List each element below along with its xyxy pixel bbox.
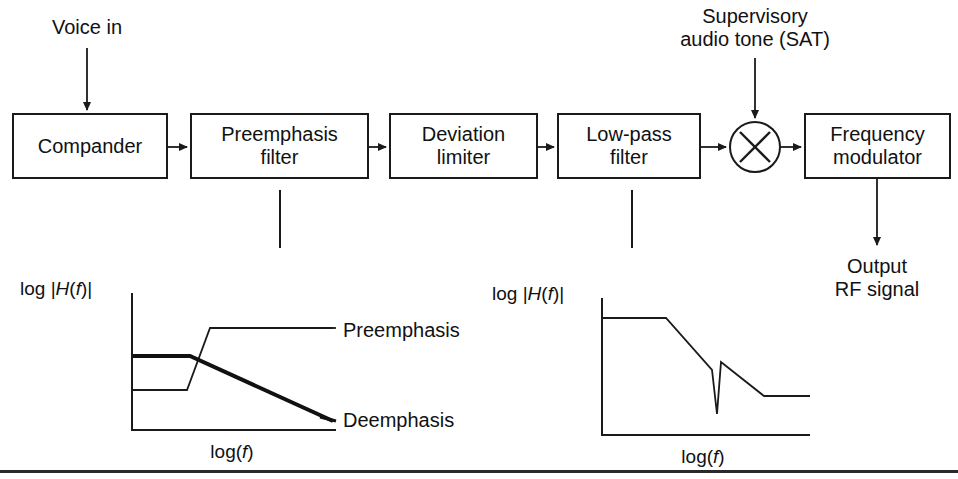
output-label-line2: RF signal (835, 278, 919, 301)
block-label-deviation-limiter: Deviation limiter (390, 114, 537, 178)
block-label-preemphasis-line1: Preemphasis (221, 123, 338, 146)
curve-annotation-preemphasis: Preemphasis (343, 319, 460, 342)
block-label-limiter-line1: Deviation (422, 123, 505, 146)
block-label-frequency-modulator: Frequency modulator (805, 114, 950, 178)
chart-left-x-axis-label: log(f) (210, 441, 253, 463)
block-label-modulator-line1: Frequency (830, 123, 925, 146)
chart-preemphasis-deemphasis (131, 293, 336, 431)
block-label-preemphasis-line2: filter (261, 146, 299, 169)
block-label-lowpass-line1: Low-pass (586, 123, 672, 146)
curve-preemphasis (132, 328, 333, 390)
diagram-vector-layer (0, 0, 958, 479)
sat-label-line2: audio tone (SAT) (680, 28, 830, 51)
block-label-compander-text: Compander (38, 135, 143, 158)
chart-low-pass-response (601, 298, 810, 436)
block-label-low-pass-filter: Low-pass filter (558, 114, 700, 178)
leader-deemphasis-label (320, 417, 336, 421)
output-label-line1: Output (847, 255, 907, 278)
sat-label-line1: Supervisory (702, 5, 808, 28)
input-label-voice-in: Voice in (52, 16, 122, 39)
block-label-limiter-line2: limiter (437, 146, 490, 169)
curve-annotation-deemphasis: Deemphasis (343, 409, 454, 432)
block-label-preemphasis-filter: Preemphasis filter (191, 114, 368, 178)
block-label-compander: Compander (13, 114, 167, 178)
chart-right-x-axis-label: log(f) (681, 446, 724, 468)
diagram-canvas: Voice in Supervisory audio tone (SAT) Co… (0, 0, 958, 479)
curve-low-pass (603, 318, 810, 414)
chart-right-y-axis-label: log |H(f)| (492, 283, 564, 305)
curve-deemphasis (133, 356, 333, 421)
block-label-lowpass-line2: filter (610, 146, 648, 169)
chart-left-y-axis-label: log |H(f)| (20, 278, 92, 300)
block-label-modulator-line2: modulator (833, 146, 922, 169)
page-bottom-rule (0, 470, 958, 473)
